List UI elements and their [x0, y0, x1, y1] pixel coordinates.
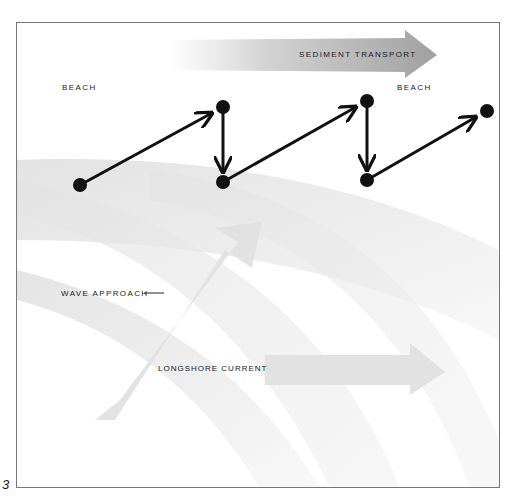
wave-approach-label: WAVE APPROACH — [61, 289, 149, 298]
sediment-transport-label: SEDIMENT TRANSPORT — [299, 50, 417, 59]
particle-dot — [216, 100, 230, 114]
beach-label-right: BEACH — [397, 83, 432, 92]
diagram-canvas — [0, 0, 513, 498]
beach-label-left: BEACH — [62, 83, 97, 92]
particle-dot — [480, 104, 494, 118]
particle-dot — [360, 94, 374, 108]
particle-dot — [73, 178, 87, 192]
longshore-current-label: LONGSHORE CURRENT — [158, 364, 267, 373]
figure-number: 3 — [2, 477, 9, 492]
particle-dot — [216, 175, 230, 189]
particle-dot — [360, 173, 374, 187]
